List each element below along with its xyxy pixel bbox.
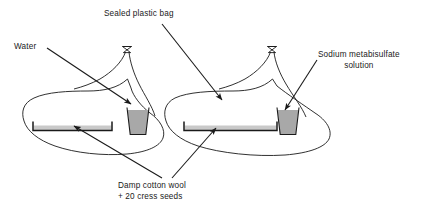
label-sealed-plastic-bag: Sealed plastic bag	[104, 9, 174, 20]
sealed-bag-arrow	[162, 24, 222, 100]
annotation-arrows	[47, 24, 317, 178]
cotton-wool-left-arrow	[74, 126, 162, 178]
left-bag-knot-icon	[123, 47, 132, 53]
left-sealed-bag	[23, 47, 164, 155]
label-cotton-line2: + 20 cress seeds	[118, 192, 186, 203]
right-bag-neck-left-strand	[219, 52, 271, 89]
left-cotton-wool-tray	[33, 122, 112, 131]
right-beaker-liquid	[278, 110, 299, 134]
right-sealed-bag	[165, 47, 330, 156]
label-sodium-line1: Sodium metabisulfate	[318, 50, 400, 59]
label-cotton-line1: Damp cotton wool	[118, 181, 186, 190]
cotton-wool-right-arrow	[172, 128, 216, 178]
right-bag-outline	[165, 79, 330, 156]
right-bag-knot-icon	[268, 47, 277, 53]
right-cotton-wool-tray	[184, 122, 277, 131]
water-arrow	[47, 48, 131, 104]
diagram-canvas: Water Sealed plastic bag Sodium metabisu…	[0, 0, 427, 217]
label-water: Water	[14, 42, 36, 53]
sodium-solution-arrow	[285, 60, 317, 110]
right-beaker	[277, 108, 299, 135]
left-beaker-liquid	[128, 110, 149, 134]
left-bag-neck-right-strand	[129, 52, 155, 116]
label-sodium-line2: solution	[318, 61, 400, 72]
label-damp-cotton-wool: Damp cotton wool+ 20 cress seeds	[118, 181, 186, 202]
label-sodium-metabisulfate-solution: Sodium metabisulfatesolution	[318, 50, 400, 71]
experiment-diagram-graphics	[0, 0, 427, 217]
left-beaker	[127, 108, 149, 135]
